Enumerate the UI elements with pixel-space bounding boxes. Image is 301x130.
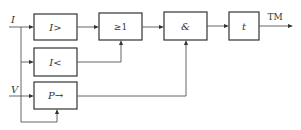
logic-diagram: I V I> ≥1 & t TM I< P→ [0, 0, 301, 130]
block-overcurrent-label: I> [48, 22, 61, 33]
block-and-gate: & [164, 12, 207, 40]
block-or-gate: ≥1 [99, 13, 142, 40]
arrow-head [159, 25, 164, 29]
block-timer: t [229, 12, 259, 40]
block-power-direction-label: P→ [47, 90, 64, 101]
input-label-i: I [10, 14, 16, 25]
block-or-gate-label: ≥1 [114, 22, 127, 32]
arrow-head [288, 24, 293, 28]
arrow-head [29, 25, 34, 29]
output-label-tm: TM [267, 12, 282, 22]
arrow-head [94, 25, 99, 29]
block-power-direction: P→ [34, 82, 77, 109]
arrow-head [55, 109, 59, 114]
block-undercurrent: I< [34, 48, 77, 76]
arrow-head [29, 60, 34, 64]
block-undercurrent-label: I< [48, 57, 61, 68]
arrow-head [224, 24, 229, 28]
wire-power-direction-to-and [77, 43, 186, 96]
block-and-gate-label: & [181, 21, 190, 32]
wire-undercurrent-to-or [77, 43, 121, 62]
arrow-head [184, 40, 188, 45]
input-label-v: V [11, 84, 20, 95]
arrow-head [119, 40, 123, 45]
block-overcurrent: I> [34, 14, 77, 40]
arrow-head [29, 94, 34, 98]
